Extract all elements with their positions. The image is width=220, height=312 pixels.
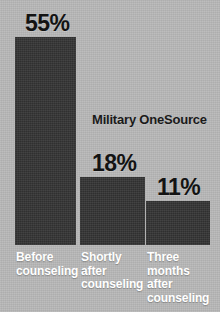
bar-before-counseling — [15, 37, 76, 245]
value-label-shortly-after-counseling: 18% — [92, 151, 137, 175]
value-label-before-counseling: 55% — [25, 11, 70, 35]
category-label-shortly-after-counseling: Shortly after counseling — [81, 251, 143, 292]
bar-shortly-after-counseling — [80, 177, 145, 245]
category-label-before-counseling: Before counseling — [16, 251, 78, 278]
bar-chart: 55% 18% 11% Military OneSource Before co… — [0, 0, 220, 312]
category-label-three-months-after-counseling: Three months after counseling — [147, 251, 209, 305]
chart-annotation-military-onesource: Military OneSource — [92, 112, 207, 127]
value-label-three-months-after-counseling: 11% — [157, 175, 200, 199]
bar-three-months-after-counseling — [146, 201, 210, 245]
